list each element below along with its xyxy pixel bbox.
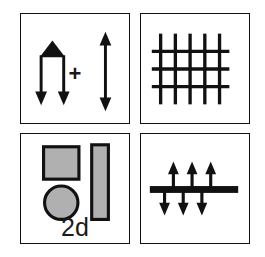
pencil-left-arrowhead-icon xyxy=(35,92,47,106)
down-arrowhead-icon-2 xyxy=(178,203,189,216)
bar-with-arrows-graphic xyxy=(141,134,249,243)
double-arrow-up-head-icon xyxy=(100,32,112,46)
panel-bottom-right xyxy=(140,133,250,244)
dimension-label: 2d xyxy=(21,215,129,240)
down-arrowhead-icon-3 xyxy=(196,203,207,216)
panel-top-left: + xyxy=(20,13,130,124)
up-arrowhead-icon-3 xyxy=(205,161,216,174)
double-arrow-down-head-icon xyxy=(100,97,112,111)
pencil-right-arrowhead-icon xyxy=(58,92,70,106)
up-arrowhead-icon-1 xyxy=(168,161,179,174)
up-arrowhead-icon-2 xyxy=(187,161,198,174)
horizontal-bar-shape xyxy=(150,186,238,193)
four-panel-figure: + xyxy=(0,0,265,257)
gray-tall-rectangle-shape xyxy=(92,145,109,220)
gray-square-shape xyxy=(44,147,79,179)
lattice-grid-graphic xyxy=(141,14,249,123)
plus-operator-label: + xyxy=(21,63,129,85)
panel-bottom-left: 2d xyxy=(20,133,130,244)
pencil-tip-icon xyxy=(40,41,66,58)
panel-top-right xyxy=(140,13,250,124)
down-arrowhead-icon-1 xyxy=(159,203,170,216)
